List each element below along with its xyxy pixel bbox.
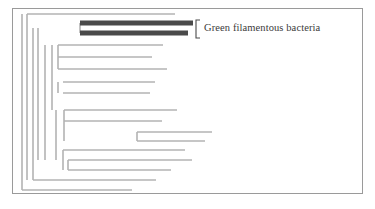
bracket-path <box>196 20 200 38</box>
highlighted-branch-1 <box>80 21 193 26</box>
phylogenetic-tree-figure: Green filamentous bacteria <box>0 0 375 209</box>
group-label-green-filamentous-bacteria: Green filamentous bacteria <box>204 22 320 33</box>
connector-lines-group <box>22 14 137 190</box>
highlighted-branch-bars-group <box>80 21 193 36</box>
highlighted-branch-2 <box>80 31 188 36</box>
group-bracket <box>196 20 200 38</box>
branch-lines-group <box>22 14 212 190</box>
